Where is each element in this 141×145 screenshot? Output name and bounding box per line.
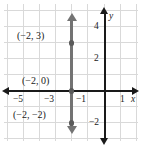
gridline-vertical	[120, 4, 121, 141]
point-label-middle: (−2, 0)	[22, 76, 49, 86]
coordinate-plane-figure: (−2, 3) (−2, 0) (−2, −2) −5 −3 −1 1 4 2 …	[0, 0, 141, 145]
gridline-vertical	[87, 4, 88, 141]
data-point-top	[69, 40, 74, 45]
y-tick-label-4: 4	[94, 22, 99, 32]
gridline-vertical	[23, 4, 24, 141]
point-label-top: (−2, 3)	[17, 31, 44, 41]
data-point-bottom	[69, 120, 74, 125]
gridline-horizontal	[4, 10, 138, 11]
gridline-vertical	[55, 4, 56, 141]
y-tick-label-neg2: −2	[89, 118, 99, 128]
y-axis	[104, 12, 106, 140]
data-point-middle	[69, 88, 74, 93]
y-axis-up-arrow-icon	[100, 7, 108, 14]
gridline-vertical	[136, 4, 137, 141]
graphed-line-down-arrow-icon	[67, 126, 77, 134]
gridline-vertical	[7, 4, 8, 141]
point-label-bottom: (−2, −2)	[13, 110, 46, 120]
x-tick-label-neg1: −1	[76, 95, 86, 105]
y-axis-down-arrow-icon	[100, 138, 108, 145]
x-axis-left-arrow-icon	[2, 87, 9, 95]
y-axis-label: y	[109, 12, 113, 22]
graphed-line-x-equals-negative-2	[70, 20, 72, 128]
x-axis-label: x	[131, 95, 135, 105]
x-tick-label-neg3: −3	[44, 95, 54, 105]
y-tick-label-2: 2	[94, 54, 99, 64]
gridline-horizontal	[4, 138, 138, 139]
gridline-vertical	[39, 4, 40, 141]
graphed-line-up-arrow-icon	[67, 13, 77, 21]
x-tick-label-1: 1	[120, 95, 125, 105]
x-tick-label-neg5: −5	[13, 95, 23, 105]
